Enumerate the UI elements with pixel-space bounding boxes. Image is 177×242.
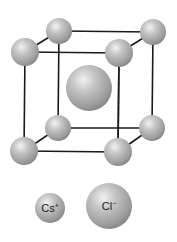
sphere-back-top-right [140,19,166,45]
edge-back-left [58,31,59,128]
sphere-front-bottom-right [104,138,132,166]
sphere-center [66,65,112,111]
edge-back-right [152,32,153,128]
edge-front-right-overlay [118,53,119,152]
sphere-back-top-left [46,18,72,44]
edge-front-left [24,52,25,151]
legend-item-cs: Cs+ [35,193,65,223]
edge-front-top [25,52,119,53]
sphere-front-top-left [11,38,39,66]
edge-front-bottom [24,151,118,152]
edge-back-top [59,31,153,32]
sphere-front-bottom-left [10,137,38,165]
legend-item-cl: Cl− [86,183,132,229]
sphere-front-top-right [105,39,133,67]
sphere-back-bottom-left [45,115,71,141]
legend: Cs+ Cl− [35,183,132,229]
cscl-unit-cell-diagram: Cs+ Cl− [0,0,177,242]
sphere-back-bottom-right [139,115,165,141]
